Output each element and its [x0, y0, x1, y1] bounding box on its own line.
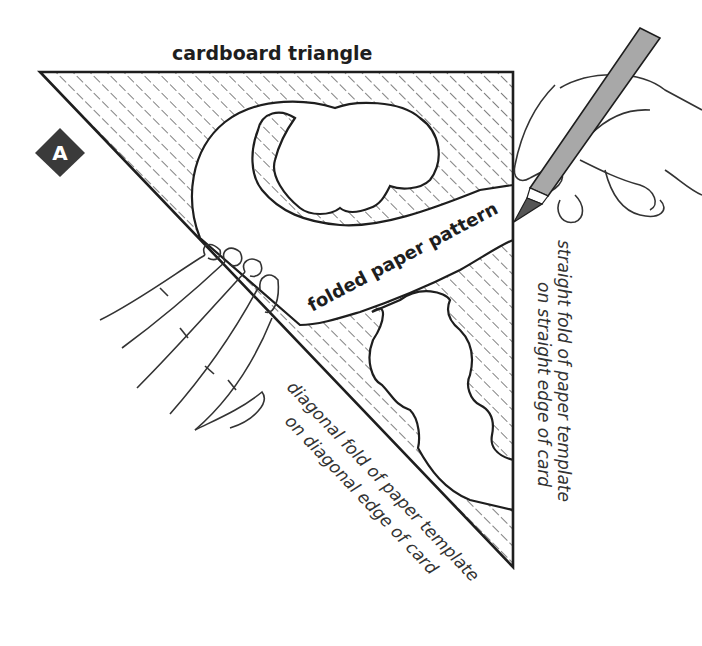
- hand-with-pencil-illustration: [514, 28, 702, 222]
- straight-caption-line1: straight fold of paper template: [554, 240, 574, 502]
- step-badge: A: [35, 128, 85, 177]
- diagram-canvas: cardboard triangle A folded paper patter…: [0, 0, 702, 646]
- pencil-icon: [530, 28, 660, 196]
- title-label: cardboard triangle: [172, 42, 372, 64]
- cardboard-triangle: [40, 72, 513, 567]
- step-badge-label: A: [52, 141, 68, 165]
- straight-caption-line2: on straight edge of card: [534, 282, 554, 487]
